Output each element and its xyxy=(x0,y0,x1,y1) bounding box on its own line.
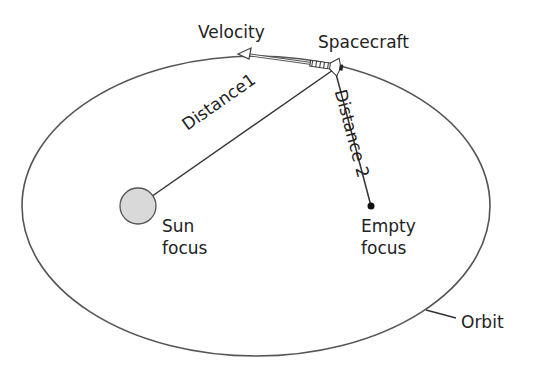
arrow-left-icon xyxy=(238,48,251,59)
empty-focus-label-line2: focus xyxy=(361,238,406,258)
orbit-leader-line xyxy=(426,310,456,318)
orbit-label: Orbit xyxy=(461,312,504,332)
orbit-diagram xyxy=(0,0,533,375)
empty-focus-label-line1: Empty xyxy=(361,216,416,236)
spacecraft-icon xyxy=(309,54,344,76)
empty-focus-dot xyxy=(368,203,375,210)
sun-focus-label-line2: focus xyxy=(162,238,207,258)
sun-focus-label-line1: Sun xyxy=(162,216,194,236)
orbit-ellipse xyxy=(22,56,490,356)
velocity-label: Velocity xyxy=(198,22,265,42)
spacecraft-label: Spacecraft xyxy=(318,32,409,52)
sun-icon xyxy=(120,188,156,224)
